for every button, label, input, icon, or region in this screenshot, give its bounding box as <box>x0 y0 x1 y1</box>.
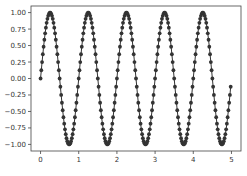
x-tick-label: 4 <box>191 156 196 164</box>
y-tick-label: −0.50 <box>5 108 26 116</box>
data-point-marker <box>173 85 177 89</box>
data-point-marker <box>133 68 137 72</box>
data-point-marker <box>211 85 215 89</box>
data-point-marker <box>128 21 132 25</box>
data-point-marker <box>118 45 122 49</box>
data-point-marker <box>223 132 227 136</box>
data-point-marker <box>191 77 195 81</box>
data-point-marker <box>156 45 160 49</box>
data-point-marker <box>150 108 154 112</box>
data-point-marker <box>113 93 117 97</box>
data-point-marker <box>130 31 134 35</box>
data-point-marker <box>214 115 218 119</box>
data-point-marker <box>61 108 65 112</box>
y-axis: 1.000.750.500.250.00−0.25−0.50−0.75−1.00 <box>5 9 31 149</box>
data-point-marker <box>194 52 198 56</box>
y-tick-label: 0.25 <box>10 59 26 67</box>
data-point-marker <box>81 38 85 42</box>
data-point-marker <box>178 127 182 131</box>
data-point-marker <box>41 52 45 56</box>
data-point-marker <box>94 52 98 56</box>
data-point-marker <box>205 26 209 30</box>
data-point-marker <box>102 132 106 136</box>
data-point-marker <box>114 85 118 89</box>
data-point-marker <box>52 21 56 25</box>
data-point-marker <box>194 45 198 49</box>
data-point-marker <box>223 136 227 140</box>
data-point-marker <box>154 68 158 72</box>
data-point-marker <box>43 31 47 35</box>
data-point-marker <box>191 85 195 89</box>
data-point-marker <box>95 68 99 72</box>
data-point-marker <box>185 136 189 140</box>
data-point-marker <box>140 132 144 136</box>
data-point-marker <box>120 26 124 30</box>
data-point-marker <box>72 122 76 126</box>
data-point-marker <box>227 101 231 105</box>
x-tick-label: 3 <box>153 156 157 164</box>
data-point-marker <box>44 26 48 30</box>
data-point-marker <box>228 93 232 97</box>
data-point-marker <box>53 31 57 35</box>
data-point-marker <box>157 38 161 42</box>
data-point-marker <box>42 38 46 42</box>
data-point-marker <box>174 93 178 97</box>
line-chart: 012345 1.000.750.500.250.00−0.25−0.50−0.… <box>0 0 247 176</box>
data-point-marker <box>112 108 116 112</box>
data-point-marker <box>113 101 117 105</box>
data-point-marker <box>54 38 58 42</box>
data-point-marker <box>197 21 201 25</box>
data-point-marker <box>135 85 139 89</box>
data-point-marker <box>130 38 134 42</box>
data-point-marker <box>138 115 142 119</box>
data-point-marker <box>115 77 119 81</box>
data-point-marker <box>190 93 194 97</box>
data-point-marker <box>83 21 87 25</box>
data-point-marker <box>78 60 82 64</box>
data-point-marker <box>166 21 170 25</box>
data-point-marker <box>172 77 176 81</box>
data-point-marker <box>71 132 75 136</box>
data-point-marker <box>212 93 216 97</box>
data-point-marker <box>74 108 78 112</box>
data-point-marker <box>94 60 98 64</box>
data-point-marker <box>62 115 66 119</box>
data-point-marker <box>101 127 105 131</box>
data-point-marker <box>148 127 152 131</box>
data-point-marker <box>91 26 95 30</box>
data-point-marker <box>131 45 135 49</box>
data-point-marker <box>217 132 221 136</box>
data-point-marker <box>214 108 218 112</box>
y-tick-label: −0.75 <box>5 124 26 132</box>
y-tick-label: −1.00 <box>5 141 26 149</box>
data-point-marker <box>62 122 66 126</box>
data-point-marker <box>216 127 220 131</box>
data-point-marker <box>136 93 140 97</box>
data-point-marker <box>116 68 120 72</box>
data-point-marker <box>59 93 63 97</box>
data-point-marker <box>58 77 62 81</box>
data-point-marker <box>97 85 101 89</box>
data-point-marker <box>149 115 153 119</box>
data-point-marker <box>227 108 231 112</box>
data-point-marker <box>55 45 59 49</box>
x-axis: 012345 <box>38 151 233 164</box>
data-point-marker <box>159 21 163 25</box>
data-point-marker <box>108 136 112 140</box>
data-point-marker <box>111 115 115 119</box>
data-point-marker <box>195 38 199 42</box>
data-point-marker <box>92 38 96 42</box>
data-point-marker <box>96 77 100 81</box>
data-point-marker <box>229 85 233 89</box>
data-point-marker <box>188 108 192 112</box>
data-point-marker <box>71 127 75 131</box>
data-point-marker <box>206 31 210 35</box>
data-point-marker <box>81 31 85 35</box>
data-point-marker <box>152 85 156 89</box>
data-point-marker <box>207 45 211 49</box>
data-point-marker <box>91 31 95 35</box>
data-point-marker <box>59 85 63 89</box>
data-point-marker <box>224 127 228 131</box>
y-tick-label: −0.25 <box>5 91 26 99</box>
data-point-marker <box>168 38 172 42</box>
